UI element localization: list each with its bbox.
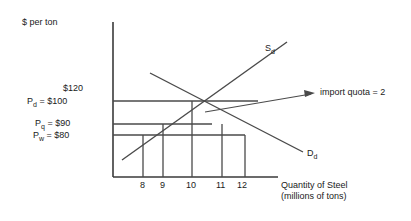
x-tick-label-12: 12 <box>237 180 247 191</box>
x-tick-label-9: 9 <box>160 180 165 191</box>
import-quota-annotation: import quota = 2 <box>320 87 385 98</box>
price-label-pw: Pw = $80 <box>33 130 69 144</box>
x-tick-label-10: 10 <box>186 180 196 191</box>
demand-curve-subscript: d <box>314 153 318 160</box>
chart-background <box>0 0 411 221</box>
y-axis-title: $ per ton <box>22 17 58 28</box>
price-label-pd: Pd = $100 <box>27 96 67 110</box>
demand-curve-label: Dd <box>307 148 317 162</box>
x-axis-title-line2: (millions of tons) <box>281 191 347 202</box>
x-tick-label-8: 8 <box>140 180 145 191</box>
supply-curve-label: Sd <box>265 43 275 57</box>
price-label-120: $120 <box>63 83 83 94</box>
pq-value: = $90 <box>45 118 70 128</box>
x-axis-title-line1: Quantity of Steel <box>281 180 348 191</box>
pw-value: = $80 <box>44 130 69 140</box>
pd-value: = $100 <box>37 96 67 106</box>
supply-demand-import-quota-chart <box>0 0 411 221</box>
x-tick-label-11: 11 <box>216 180 225 191</box>
supply-curve-subscript: d <box>271 48 275 55</box>
